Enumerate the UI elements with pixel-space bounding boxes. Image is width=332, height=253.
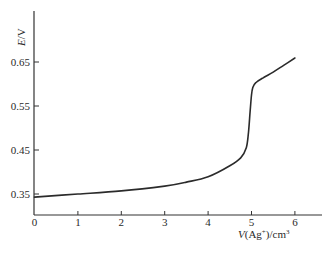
titration-chart: 0123456 0.350.450.550.65 E/V V(Ag+)/cm3: [0, 0, 332, 253]
x-tick-label: 4: [205, 216, 211, 228]
x-tick-label: 6: [292, 216, 298, 228]
x-tick-label: 0: [32, 216, 38, 228]
y-ticks: 0.350.450.550.65: [11, 56, 39, 200]
x-axis-label: V(Ag+)/cm3: [238, 228, 290, 241]
x-tick-label: 3: [162, 216, 168, 228]
y-tick-label: 0.65: [11, 56, 31, 68]
y-tick-label: 0.55: [11, 100, 31, 112]
y-tick-label: 0.45: [11, 144, 31, 156]
x-tick-label: 2: [119, 216, 125, 228]
y-axis-label: E/V: [15, 28, 27, 47]
x-ticks: 0123456: [32, 211, 298, 228]
x-tick-label: 1: [75, 216, 81, 228]
y-tick-label: 0.35: [11, 188, 31, 200]
titration-curve-line: [35, 58, 295, 197]
x-tick-label: 5: [249, 216, 255, 228]
